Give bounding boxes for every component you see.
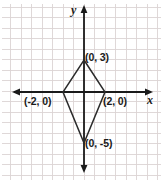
y-axis-down-arrow bbox=[81, 165, 88, 173]
y-axis-label: y bbox=[71, 4, 76, 16]
coordinate-plane-figure: (0, 3) (2, 0) (0, -5) (-2, 0) y x bbox=[0, 0, 163, 184]
vertex-label-top: (0, 3) bbox=[85, 52, 109, 63]
y-axis-up-arrow bbox=[81, 5, 88, 13]
vertex-label-right: (2, 0) bbox=[103, 96, 127, 107]
vertex-label-bottom: (0, -5) bbox=[85, 138, 112, 149]
vertex-label-left: (-2, 0) bbox=[24, 96, 51, 107]
x-axis-left-arrow bbox=[12, 89, 20, 96]
x-axis-label: x bbox=[147, 94, 153, 106]
plot-canvas bbox=[0, 0, 163, 184]
